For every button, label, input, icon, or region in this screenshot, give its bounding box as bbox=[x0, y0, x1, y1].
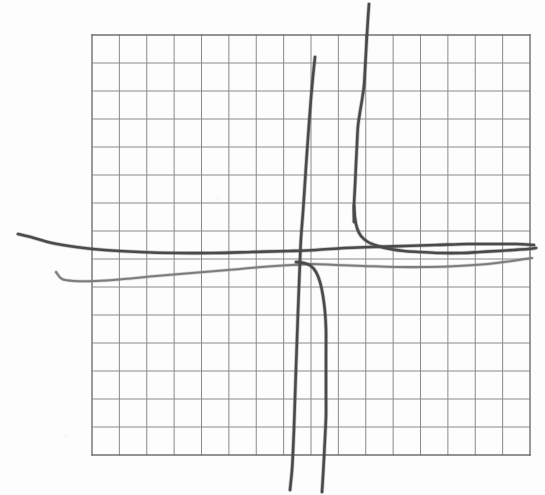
curve-layer bbox=[18, 4, 536, 492]
curve-branch-lower-left-horizontal bbox=[56, 258, 532, 281]
curve-branch-upper-left-horizontal bbox=[18, 234, 534, 253]
graph-page bbox=[0, 0, 545, 495]
hand-drawn-graph bbox=[0, 0, 545, 495]
